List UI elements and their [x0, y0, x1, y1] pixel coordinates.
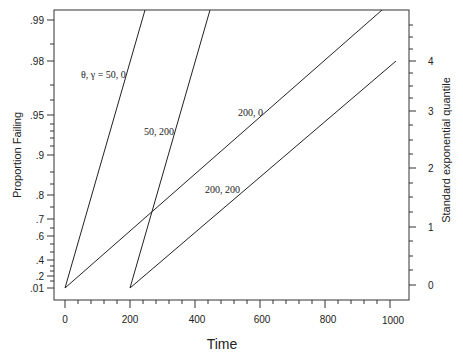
y-tick-99: .99	[30, 15, 44, 26]
y-tick-9: .9	[36, 150, 45, 161]
y-tick-2: .2	[36, 271, 45, 282]
y-tick-98: .98	[30, 56, 44, 67]
q-tick-1: 1	[428, 222, 434, 233]
line-200-200	[130, 61, 396, 288]
y-tick-01: .01	[30, 283, 44, 294]
x-tick-200: 200	[122, 314, 139, 325]
q-tick-3: 3	[428, 106, 434, 117]
left-y-axis	[47, 20, 54, 288]
x-tick-1000: 1000	[382, 315, 405, 326]
label-series-200-0: 200, 0	[238, 107, 263, 118]
series-lines	[65, 10, 396, 288]
label-series-200-200: 200, 200	[205, 184, 240, 195]
q-tick-4: 4	[428, 56, 434, 67]
left-y-tick-labels: .99 .98 .95 .9 .8 .7 .6 .4 .2 .01	[30, 15, 44, 294]
x-tick-600: 600	[254, 314, 271, 325]
line-200-0	[65, 10, 382, 288]
x-axis	[65, 300, 390, 308]
right-y-axis	[409, 25, 416, 285]
x-tick-labels: 0 200 400 600 800 1000	[62, 314, 404, 326]
probability-plot: 0 200 400 600 800 1000 Time .99 .98 .95 …	[0, 0, 463, 356]
q-tick-0: 0	[428, 280, 434, 291]
x-axis-title: Time	[207, 336, 238, 352]
q-tick-2: 2	[428, 163, 434, 174]
x-tick-0: 0	[62, 314, 68, 325]
y-tick-8: .8	[36, 190, 45, 201]
label-series-50-200: 50, 200	[144, 126, 174, 137]
right-y-tick-labels: 4 3 2 1 0	[428, 56, 434, 291]
plot-frame	[54, 10, 409, 300]
right-y-axis-title: Standard exponential quantile	[440, 77, 452, 223]
label-series-50-0: θ, γ = 50, 0	[81, 69, 126, 80]
y-tick-95: .95	[30, 110, 44, 121]
line-50-0	[65, 10, 145, 288]
x-tick-800: 800	[320, 314, 337, 325]
left-y-axis-title: Proportion Failing	[11, 112, 23, 198]
y-tick-7: .7	[36, 214, 45, 225]
y-tick-6: .6	[36, 231, 45, 242]
x-tick-400: 400	[189, 314, 206, 325]
line-50-200	[130, 10, 210, 288]
y-tick-4: .4	[36, 255, 45, 266]
